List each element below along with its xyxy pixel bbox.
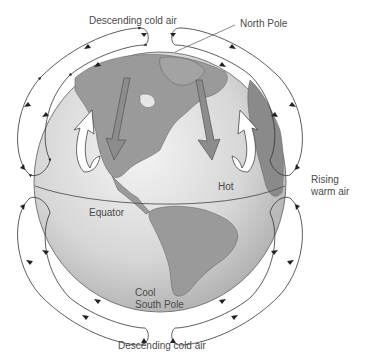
label-warm-air: warm air [311, 186, 349, 197]
label-rising: Rising [311, 174, 339, 185]
label-north-pole: North Pole [240, 18, 287, 29]
label-south-pole: South Pole [135, 299, 184, 310]
north-pole-leader [175, 25, 235, 52]
label-top-descending-cold-air: Descending cold air [89, 15, 177, 26]
label-bottom-descending-cold-air: Descending cold air [118, 340, 206, 351]
globe [34, 52, 286, 312]
label-cool: Cool [135, 287, 156, 298]
label-equator: Equator [89, 207, 124, 218]
label-hot: Hot [218, 181, 234, 192]
